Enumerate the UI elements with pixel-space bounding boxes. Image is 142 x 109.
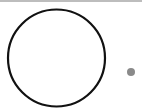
large-circle	[8, 10, 105, 107]
diagram-canvas	[0, 0, 142, 109]
small-dot	[127, 68, 135, 76]
shapes-layer	[0, 0, 142, 109]
